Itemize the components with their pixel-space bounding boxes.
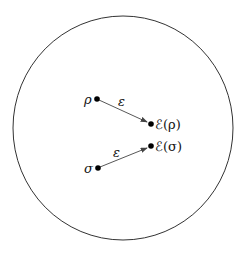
point-E-rho xyxy=(148,121,154,127)
point-E-sigma xyxy=(148,143,154,149)
channel-diagram: ρ ℰ(ρ) σ ℰ(σ) ε ε xyxy=(0,0,244,254)
point-sigma xyxy=(95,165,101,171)
label-rho: ρ xyxy=(83,92,92,107)
point-rho xyxy=(94,96,100,102)
arrow-sigma-to-E-sigma xyxy=(100,148,147,167)
label-E-sigma: ℰ(σ) xyxy=(155,139,182,154)
label-sigma: σ xyxy=(84,161,94,176)
label-channel-top: ε xyxy=(118,94,125,109)
label-channel-bottom: ε xyxy=(113,145,120,160)
label-E-rho: ℰ(ρ) xyxy=(155,117,181,132)
state-space-circle xyxy=(13,16,233,240)
